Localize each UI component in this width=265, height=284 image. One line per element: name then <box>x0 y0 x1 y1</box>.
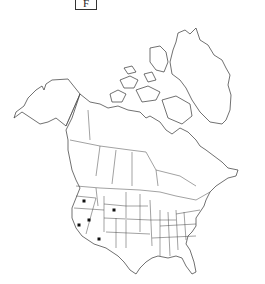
marker-arizona <box>98 238 101 241</box>
marker-nevada <box>88 219 91 222</box>
marker-california <box>78 224 81 227</box>
north-america-map <box>0 0 265 284</box>
marker-oregon <box>83 200 86 203</box>
marker-wyoming <box>113 209 116 212</box>
alaska <box>14 79 80 126</box>
